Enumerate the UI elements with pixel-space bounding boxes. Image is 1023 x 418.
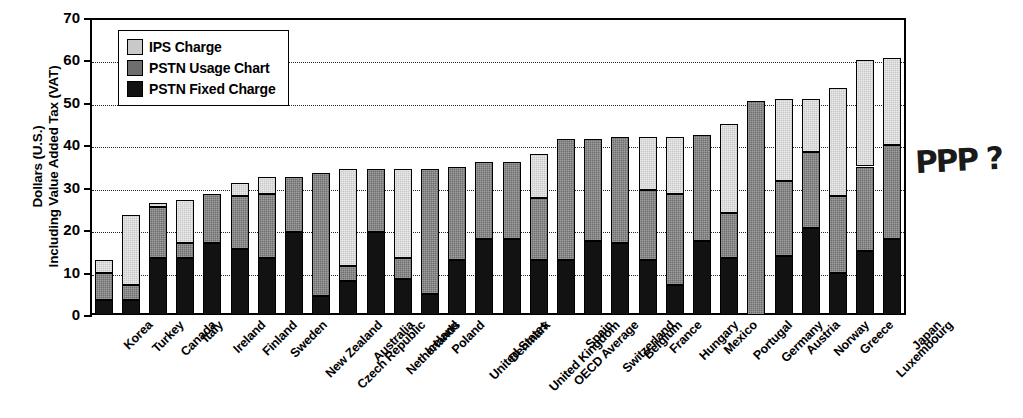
bar-switzerland [584, 18, 602, 315]
bar-segment-ips [95, 260, 113, 273]
bar-segment-usage [639, 190, 657, 260]
x-tick-label: Korea [121, 318, 155, 352]
y-tick-label-40: 40 [34, 137, 80, 152]
bar-segment-fixed [421, 294, 439, 315]
bar-segment-fixed [503, 239, 521, 315]
chart-legend: IPS ChargePSTN Usage ChartPSTN Fixed Cha… [118, 30, 289, 106]
bar-segment-ips [802, 99, 820, 152]
bar-segment-fixed [775, 256, 793, 315]
bar-greece [829, 18, 847, 315]
legend-label: PSTN Fixed Charge [149, 82, 276, 96]
bar-segment-usage [95, 273, 113, 301]
chart-container: Dollars (U.S.) Including Value Added Tax… [0, 0, 1023, 418]
bar-segment-usage [394, 258, 412, 279]
legend-label: IPS Charge [149, 40, 222, 54]
bar-segment-fixed [802, 228, 820, 315]
bar-segment-usage [448, 167, 466, 260]
bar-segment-ips [530, 154, 548, 199]
legend-label: PSTN Usage Chart [149, 61, 270, 75]
bar-segment-usage [829, 196, 847, 272]
bar-segment-usage [666, 194, 684, 285]
bar-segment-usage [775, 181, 793, 255]
bar-oecd-average [530, 18, 548, 315]
bar-segment-fixed [666, 285, 684, 315]
bar-segment-fixed [312, 296, 330, 315]
bar-mexico [693, 18, 711, 315]
x-axis-labels: KoreaTurkeyCanadaItalyIrelandFinlandSwed… [90, 318, 906, 418]
legend-swatch-ips [127, 39, 143, 55]
bar-segment-fixed [611, 243, 629, 315]
bar-segment-fixed [693, 241, 711, 315]
bar-segment-usage [693, 135, 711, 241]
bar-segment-usage [720, 213, 738, 258]
bar-segment-usage [557, 139, 575, 260]
bar-segment-fixed [639, 260, 657, 315]
bar-poland [421, 18, 439, 315]
y-tick-label-70: 70 [34, 10, 80, 25]
bar-norway [802, 18, 820, 315]
bar-segment-usage [802, 152, 820, 228]
bar-segment-usage [475, 162, 493, 238]
bar-australia [339, 18, 357, 315]
bar-segment-ips [883, 58, 901, 145]
bar-segment-fixed [883, 239, 901, 315]
bar-segment-usage [611, 137, 629, 243]
bar-france [639, 18, 657, 315]
bar-segment-usage [367, 169, 385, 233]
bar-luxembourg [856, 18, 874, 315]
bar-segment-ips [829, 88, 847, 196]
legend-swatch-fixed [127, 81, 143, 97]
bar-spain [557, 18, 575, 315]
x-tick-label: Denmark [507, 318, 554, 365]
bar-portugal [720, 18, 738, 315]
bar-segment-ips [231, 183, 249, 196]
y-axis: 010203040506070 [0, 0, 90, 418]
bar-denmark [475, 18, 493, 315]
bar-segment-usage [584, 139, 602, 241]
bar-segment-usage [285, 177, 303, 232]
bar-segment-fixed [122, 300, 140, 315]
bar-germany [747, 18, 765, 315]
legend-item: PSTN Fixed Charge [127, 78, 276, 99]
bar-segment-ips [149, 203, 167, 207]
legend-swatch-usage [127, 60, 143, 76]
y-tick-label-10: 10 [34, 265, 80, 280]
bar-segment-fixed [829, 273, 847, 315]
bar-segment-fixed [367, 232, 385, 315]
bar-segment-ips [176, 200, 194, 242]
y-tick-mark-0 [84, 315, 92, 317]
bar-segment-usage [203, 194, 221, 243]
bar-segment-ips [122, 215, 140, 285]
bar-czech-republic [312, 18, 330, 315]
bar-segment-usage [883, 145, 901, 238]
bar-segment-fixed [149, 258, 167, 315]
bar-japan [883, 18, 901, 315]
y-tick-label-50: 50 [34, 95, 80, 110]
bar-segment-usage [421, 169, 439, 294]
bar-segment-ips [258, 177, 276, 194]
bar-segment-ips [775, 99, 793, 182]
y-tick-label-0: 0 [34, 307, 80, 322]
bar-segment-ips [720, 124, 738, 213]
bar-segment-usage [856, 167, 874, 252]
bar-segment-usage [339, 266, 357, 281]
bar-segment-fixed [203, 243, 221, 315]
bar-segment-fixed [231, 249, 249, 315]
bar-segment-fixed [394, 279, 412, 315]
bar-segment-fixed [720, 258, 738, 315]
bar-segment-usage [530, 198, 548, 260]
bar-segment-usage [747, 101, 765, 315]
bar-segment-usage [258, 194, 276, 258]
y-tick-label-60: 60 [34, 52, 80, 67]
bar-segment-fixed [856, 251, 874, 315]
bar-segment-ips [394, 169, 412, 258]
bar-segment-ips [666, 137, 684, 194]
bar-segment-usage [231, 196, 249, 249]
bar-segment-fixed [258, 258, 276, 315]
bar-segment-fixed [95, 300, 113, 315]
handwritten-annotation: PPP ? [914, 140, 1003, 181]
y-tick-label-30: 30 [34, 180, 80, 195]
bar-segment-fixed [475, 239, 493, 315]
bar-segment-fixed [285, 232, 303, 315]
bar-segment-ips [339, 169, 357, 267]
